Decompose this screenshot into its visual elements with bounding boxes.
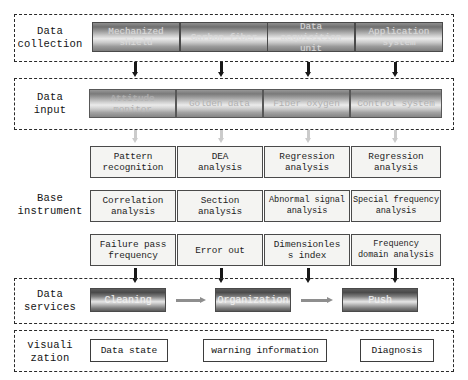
node-error-out[interactable]: Error out — [177, 234, 263, 266]
section-label-visualization: visuali zation — [10, 339, 90, 364]
arrow-collection-to-input-2 — [218, 62, 225, 77]
node-abnormal-signal-analysis[interactable]: Abnormal signal analysis — [264, 190, 350, 222]
section-label-data-input: Data input — [10, 91, 90, 116]
node-warning-information[interactable]: warning information — [203, 339, 327, 362]
node-dimensionless-index[interactable]: Dimensionles s index — [264, 234, 350, 266]
section-label-base-instrument: Base instrument — [4, 192, 96, 217]
node-dea-analysis[interactable]: DEA analysis — [177, 146, 263, 178]
node-fiber-oxygen[interactable]: Fiber oxygen — [263, 89, 350, 118]
arrow-input-to-base-4 — [392, 130, 399, 143]
arrow-cleaning-to-organization — [176, 297, 206, 304]
node-push[interactable]: Push — [342, 288, 418, 312]
node-organization[interactable]: Organization — [215, 288, 291, 312]
node-mechanized-shield[interactable]: Mechanized shield — [92, 22, 180, 52]
arrow-collection-to-input-1 — [132, 62, 139, 77]
architecture-diagram: Data collection Mechanized shield Carbon… — [0, 0, 468, 380]
node-control-system[interactable]: Control system — [350, 89, 442, 118]
section-label-data-services: Data services — [10, 288, 90, 313]
arrow-collection-to-input-4 — [392, 62, 399, 77]
node-application-system[interactable]: Application system — [355, 22, 443, 52]
node-section-analysis[interactable]: Section analysis — [177, 190, 263, 222]
arrow-input-to-base-3 — [305, 130, 312, 143]
node-correlation-analysis[interactable]: Correlation analysis — [90, 190, 176, 222]
node-regression-analysis-1[interactable]: Regression analysis — [264, 146, 350, 178]
arrow-organization-to-push — [301, 297, 333, 304]
node-regression-analysis-2[interactable]: Regression analysis — [351, 146, 441, 178]
node-data-state[interactable]: Data state — [90, 339, 168, 362]
node-frequency-domain-analysis[interactable]: Frequency domain analysis — [351, 234, 441, 266]
node-data-acquisition-unit[interactable]: Data acquisition unit — [267, 22, 355, 52]
node-cleaning[interactable]: Cleaning — [90, 288, 166, 312]
node-attitude-monitor[interactable]: Attitude monitor — [89, 89, 176, 118]
node-special-frequency-analysis[interactable]: Special frequency analysis — [351, 190, 441, 222]
node-failure-pass-frequency[interactable]: Failure pass frequency — [90, 234, 176, 266]
node-pattern-recognition[interactable]: Pattern recognition — [90, 146, 176, 178]
node-diagnosis[interactable]: Diagnosis — [360, 339, 434, 362]
arrow-input-to-base-2 — [218, 130, 225, 143]
node-golden-data[interactable]: Golden data — [176, 89, 263, 118]
arrow-collection-to-input-3 — [305, 62, 312, 77]
arrow-input-to-base-1 — [132, 130, 139, 143]
node-carbon-fiber[interactable]: Carbon fiber — [180, 22, 268, 52]
section-label-data-collection: Data collection — [10, 25, 90, 50]
